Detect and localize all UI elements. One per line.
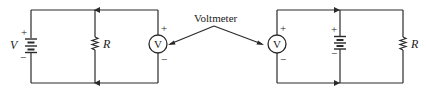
right-current-arrow-top-icon — [334, 7, 340, 13]
voltmeter-circuit-diagram: + − V R V + − Voltmeter — [0, 0, 426, 92]
right-voltmeter-icon: V — [268, 35, 286, 53]
left-voltmeter-plus: + — [161, 22, 167, 34]
right-circuit: V + − + − R — [268, 7, 419, 86]
voltmeter-callout-label: Voltmeter — [194, 12, 238, 24]
right-battery-minus: − — [331, 47, 337, 59]
left-voltmeter-symbol: V — [154, 38, 162, 50]
callout-arrow-left-icon — [168, 41, 176, 46]
right-resistor-icon — [400, 37, 406, 50]
left-voltmeter-minus: − — [161, 53, 167, 65]
left-battery-label: V — [10, 38, 19, 52]
left-battery-icon — [25, 39, 37, 53]
left-resistor-label: R — [102, 37, 111, 51]
left-circuit: + − V R V + − — [10, 7, 167, 86]
right-voltmeter-plus: + — [280, 22, 286, 34]
left-circuit-wires — [31, 10, 158, 83]
left-voltmeter-icon: V — [149, 35, 167, 53]
callout-arrow-right-icon — [257, 41, 265, 46]
right-voltmeter-symbol: V — [273, 38, 281, 50]
left-battery-minus: − — [20, 51, 26, 63]
left-resistor-icon — [92, 37, 98, 50]
right-resistor-label: R — [410, 37, 419, 51]
right-battery-plus: + — [331, 23, 337, 35]
left-battery-plus: + — [21, 26, 27, 38]
voltmeter-callout: Voltmeter — [168, 12, 264, 45]
right-voltmeter-minus: − — [280, 53, 286, 65]
right-current-arrow-bottom-icon — [334, 80, 340, 86]
